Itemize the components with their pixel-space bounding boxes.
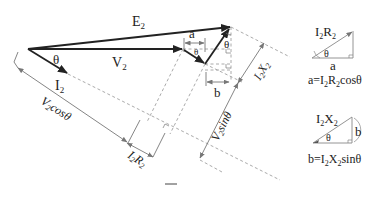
inset-top-formula: a=I2R2cosθ <box>308 73 362 89</box>
inset-i2r2-triangle: I2R2 θ a a=I2R2cosθ <box>308 24 362 89</box>
inset-bottom-theta: θ <box>326 132 331 143</box>
label-i2r2: I2R2 <box>124 147 149 171</box>
label-theta-main: θ <box>53 52 59 67</box>
inset-top-hyp-label: I2R2 <box>315 24 336 41</box>
construction-lines <box>68 27 290 180</box>
label-i2x2: I2X2 <box>250 59 273 84</box>
phasor-diagram: E2 V2 θ I2 a θ θ b V2cosθ I2R2 V2sinθ I2… <box>0 0 378 197</box>
e2-vector <box>28 27 230 49</box>
i2-vector <box>28 49 67 73</box>
label-a: a <box>189 26 195 41</box>
label-i2: I2 <box>55 78 64 95</box>
inset-top-theta: θ <box>324 48 329 59</box>
label-v2sin: V2sinθ <box>208 109 236 144</box>
label-theta-top: θ <box>224 38 229 50</box>
inset-bottom-hyp-label: I2X2 <box>316 111 338 128</box>
label-v2: V2 <box>112 55 127 72</box>
label-v2cos: V2cosθ <box>38 94 74 125</box>
labels: E2 V2 θ I2 a θ θ b V2cosθ I2R2 V2sinθ I2… <box>38 14 273 171</box>
label-b: b <box>214 85 221 100</box>
inset-bottom-formula: b=I2X2sinθ <box>308 152 361 168</box>
angle-arcs <box>226 33 231 35</box>
inset-i2x2-triangle: I2X2 θ b b=I2X2sinθ <box>308 111 362 168</box>
inset-top-base-a: a <box>330 58 336 73</box>
label-theta-small: θ <box>194 47 198 57</box>
label-e2: E2 <box>132 14 145 31</box>
inset-bottom-side-b: b <box>355 124 362 139</box>
